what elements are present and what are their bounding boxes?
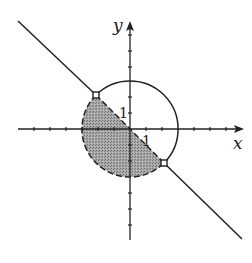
open-point-lower-right: [161, 160, 167, 166]
open-point-upper-left: [93, 92, 99, 98]
line-y-equals-neg-x-lower: [164, 163, 242, 239]
line-y-equals-neg-x-upper: [18, 21, 96, 95]
x-axis-label: x: [233, 133, 243, 153]
y-tick-label-1: 1: [119, 105, 128, 121]
region-diagram: y x 1 1: [0, 0, 252, 263]
x-tick-label-1: 1: [142, 133, 151, 149]
y-axis-label: y: [112, 15, 123, 35]
